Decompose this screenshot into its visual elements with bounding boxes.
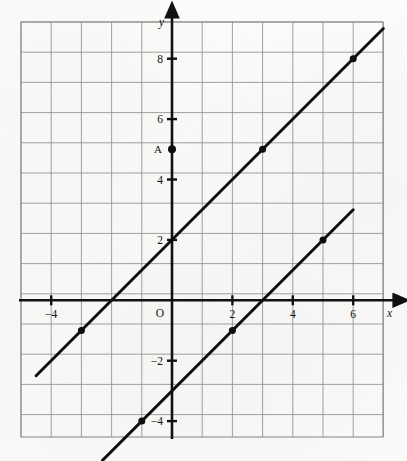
x-tick-label: 6 (350, 308, 356, 320)
x-tick-label: 4 (290, 308, 296, 320)
y-axis-label: y (158, 16, 165, 29)
axes-layer (19, 16, 395, 439)
y-tick-label: 2 (157, 234, 163, 246)
data-point-marker (138, 418, 145, 425)
x-tick-label: −4 (45, 308, 57, 320)
data-point-marker (350, 55, 357, 62)
data-point-marker (320, 236, 327, 243)
y-tick-label: −2 (151, 355, 163, 367)
data-points-layer (78, 55, 357, 424)
annotated-point-marker (168, 145, 176, 153)
y-tick-label: −4 (151, 415, 163, 427)
coordinate-plane: −42468642−2−4OxyA (0, 0, 407, 461)
y-tick-label: 8 (157, 53, 163, 65)
annotated-point-label: A (154, 143, 162, 155)
y-tick-label: 6 (157, 113, 163, 125)
x-tick-label: 2 (230, 308, 236, 320)
x-axis-label: x (386, 307, 393, 319)
plotted-lines-layer (36, 29, 383, 461)
data-point-marker (259, 146, 266, 153)
data-point-marker (229, 327, 236, 334)
graph-screenshot: −42468642−2−4OxyA (0, 0, 407, 461)
origin-label: O (156, 307, 164, 319)
data-point-marker (78, 327, 85, 334)
y-tick-label: 4 (157, 174, 163, 186)
